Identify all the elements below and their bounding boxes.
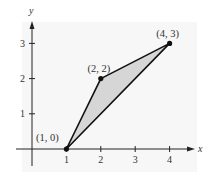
chart-canvas: 1234 123 x y (1, 0)(2, 2)(4, 3) <box>0 0 207 172</box>
triangle-figure: 1234 123 x y (1, 0)(2, 2)(4, 3) <box>0 0 207 172</box>
y-tick-label: 2 <box>20 73 25 84</box>
vertex-dot <box>98 76 103 81</box>
y-tick-label: 3 <box>20 38 25 49</box>
vertex-dot <box>167 41 172 46</box>
x-tick-label: 1 <box>64 154 69 165</box>
y-tick-label: 1 <box>20 108 25 119</box>
vertex-label: (4, 3) <box>156 28 179 40</box>
vertex-label: (1, 0) <box>36 132 59 144</box>
x-tick-label: 4 <box>167 154 172 165</box>
x-tick-label: 2 <box>98 154 103 165</box>
x-tick-label: 3 <box>133 154 138 165</box>
vertex-label: (2, 2) <box>87 63 110 75</box>
vertex-dot <box>64 146 69 151</box>
x-axis-label: x <box>197 143 203 154</box>
y-axis-label: y <box>28 5 34 16</box>
